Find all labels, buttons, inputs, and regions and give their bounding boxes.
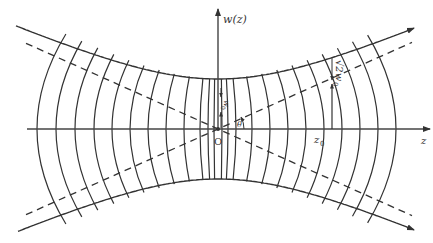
diagram-canvas: w(z) z O θ w 0 z 0 √2w 0 (0, 0, 433, 243)
origin-label: O (214, 136, 222, 147)
svg-text:√2w: √2w (334, 60, 345, 82)
z0-label: z 0 (313, 134, 324, 148)
origin-point (216, 127, 220, 131)
svg-text:0: 0 (331, 82, 339, 86)
z-axis-label: z (420, 135, 427, 146)
theta-label: θ (237, 120, 242, 129)
w-axis-label: w(z) (223, 13, 247, 26)
gaussian-beam-diagram: w(z) z O θ w 0 z 0 √2w 0 (0, 0, 433, 243)
svg-text:z: z (313, 134, 320, 145)
envelope-lower (18, 179, 414, 231)
sqrt2-w0-label: √2w 0 (331, 60, 345, 86)
svg-text:0: 0 (320, 140, 324, 148)
svg-text:0: 0 (220, 106, 227, 110)
